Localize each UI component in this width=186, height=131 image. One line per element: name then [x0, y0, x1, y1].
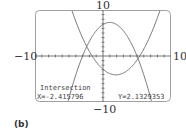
intersection-x-value: X=-2.415796	[37, 94, 83, 101]
x-min-label: −10	[14, 51, 37, 62]
intersection-y-value: Y=2.1329353	[118, 94, 164, 101]
y-max-label: 10	[96, 0, 110, 11]
intersection-label: Intersection	[40, 85, 91, 92]
panel-label: (b)	[14, 119, 29, 129]
y-min-label: −10	[93, 104, 116, 115]
x-max-label: 10	[173, 51, 186, 62]
